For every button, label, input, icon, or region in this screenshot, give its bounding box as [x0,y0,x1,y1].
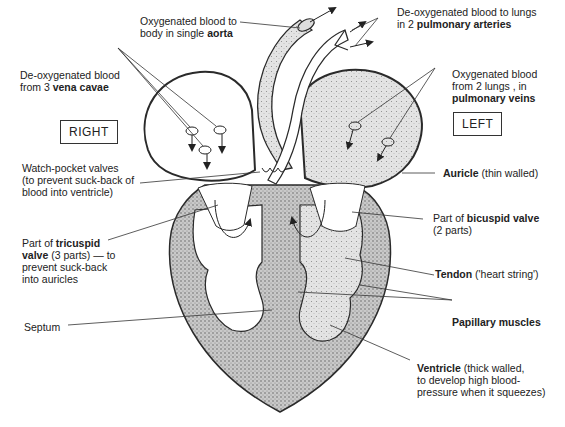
papillary-muscles-label: Papillary muscles [452,316,541,328]
auricle-label: Auricle (thin walled) [443,167,538,179]
vena-cavae-label: De-oxygenated blood from 3 vena cavae [20,69,120,93]
septum-label: Septum [24,321,60,333]
tricuspid-valve-label: Part of tricuspid valve (3 parts) — to p… [22,237,115,285]
right-side-label: RIGHT [60,120,118,144]
tendon-label: Tendon ('heart string') [435,268,539,280]
aorta-label: Oxygenated blood to body in single aorta [140,15,237,39]
pulmonary-arteries-label: De-oxygenated blood to lungs in 2 pulmon… [397,6,537,30]
bicuspid-valve-label: Part of bicuspid valve (2 parts) [433,212,539,236]
pulmonary-veins-label: Oxygenated blood from 2 lungs , in pulmo… [452,68,537,104]
left-auricle [300,70,422,188]
ventricle-label: Ventricle (thick walled, to develop high… [417,362,545,398]
left-side-label: LEFT [453,112,502,136]
right-auricle [145,72,255,181]
watch-pocket-valves-label: Watch-pocket valves (to prevent suck-bac… [22,162,134,198]
